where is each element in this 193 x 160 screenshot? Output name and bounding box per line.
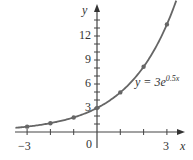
data-point-marker <box>25 124 29 128</box>
x-tick-label-neg3: −3 <box>18 139 31 153</box>
y-tick-label-9: 9 <box>85 52 91 66</box>
y-tick-label-12: 12 <box>79 28 91 42</box>
y-axis-label: y <box>81 3 88 17</box>
y-tick-label-3: 3 <box>85 100 91 114</box>
equation-label: y = 3e0.5x <box>134 74 180 89</box>
data-point-marker <box>48 121 52 125</box>
y-axis-arrow-icon <box>94 4 100 12</box>
x-axis-arrow-icon <box>177 129 185 135</box>
x-axis-label: x <box>179 139 186 153</box>
data-point-marker <box>118 90 122 94</box>
data-point-marker <box>165 22 169 26</box>
equation-lhs: y = 3 <box>134 75 160 89</box>
data-point-marker <box>95 106 99 110</box>
data-point-marker <box>141 65 145 69</box>
x-tick-label-3: 3 <box>163 139 169 153</box>
exponential-chart: y x 0 −3 3 3 6 9 12 y = 3e0.5x <box>0 0 193 160</box>
y-tick-label-6: 6 <box>85 76 91 90</box>
equation-exponent: 0.5x <box>166 74 180 83</box>
origin-label: 0 <box>86 137 92 151</box>
data-point-marker <box>72 115 76 119</box>
